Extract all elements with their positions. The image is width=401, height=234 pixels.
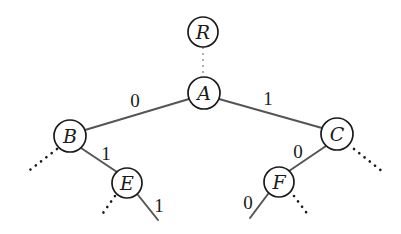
node-e: E xyxy=(112,168,142,198)
edge-f-omitted xyxy=(294,196,309,216)
node-b: B xyxy=(54,120,86,152)
node-f: F xyxy=(264,167,294,197)
nodes-layer: RABCEF xyxy=(54,17,353,198)
node-a: A xyxy=(188,77,220,109)
edge-e-omitted xyxy=(101,196,115,216)
node-label: F xyxy=(271,171,286,193)
edge-b-omitted xyxy=(26,149,57,173)
node-label: R xyxy=(195,21,210,43)
node-label: A xyxy=(195,82,211,104)
edge-label: 0 xyxy=(293,141,303,162)
edge-b-e xyxy=(81,148,117,172)
node-c: C xyxy=(321,118,353,150)
node-label: C xyxy=(330,123,345,145)
tree-diagram: 011010 RABCEF xyxy=(0,0,401,234)
edge-label: 1 xyxy=(101,143,111,164)
edge-label: 0 xyxy=(130,90,140,111)
node-label: E xyxy=(119,172,134,194)
edge-label: 1 xyxy=(263,88,273,109)
edge-c-omitted xyxy=(354,149,383,172)
node-label: B xyxy=(62,125,77,147)
node-r: R xyxy=(188,17,218,47)
edge-label: 1 xyxy=(154,195,164,216)
edge-label: 0 xyxy=(243,192,253,213)
